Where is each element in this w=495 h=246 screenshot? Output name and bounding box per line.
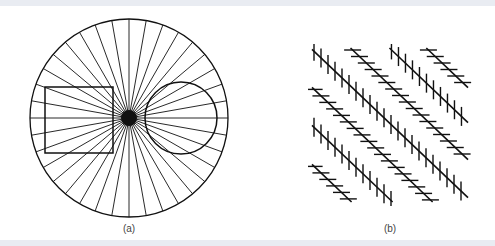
panel-b-label: (b) [370, 222, 410, 236]
diagonal-line [312, 164, 352, 202]
diagonal-line [389, 48, 468, 123]
square-shape [45, 87, 113, 153]
panel-a-label: (a) [109, 222, 149, 236]
illusion-figure [0, 0, 495, 246]
panel-b-hatched-diagonals-figure [306, 40, 472, 210]
center-dot [121, 110, 137, 126]
diagonal-line [312, 87, 433, 202]
diagonal-line [312, 125, 393, 202]
diagonal-line [426, 48, 468, 88]
bottom-band [0, 240, 495, 246]
panel-a-radiating-lines-figure [30, 19, 228, 217]
